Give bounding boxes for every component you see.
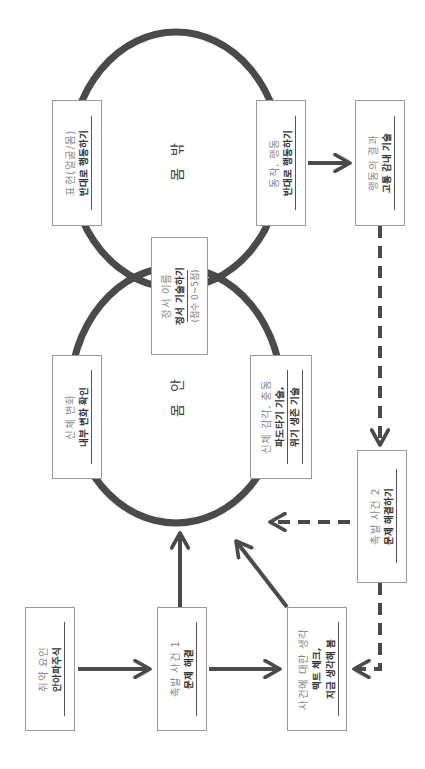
sensation-skill-line1: 파도타기 기술, [273,370,288,464]
thoughts-title: 사건에 대한 생각 [296,628,310,709]
trigger2-title: 촉발 사건 2 [368,488,382,545]
expression-skill: 반대로 행동하기 [77,116,92,210]
result-title: 행동의 결과 [366,135,380,191]
expression-title: 표현(얼굴/몸) [63,130,77,196]
trigger1-box: 촉발 사건 1 문제 해결 [157,607,207,731]
vulnerability-box: 취약 요인 안아파주식 [25,607,75,731]
action-title: 동작, 행동 [267,138,281,188]
emotion-name-skill: 정서 기술하기 [173,249,187,343]
thoughts-skill-line1: 팩트 체크, [310,622,324,716]
arrow-thoughts-to-inside-body [236,541,287,607]
emotion-model-diagram: 몸 안 몸 밖 취약 요인 안아파주식 촉발 사건 1 문제 해결 사건에 대한… [0,0,425,769]
emotion-name-box: 정서 이름 정서 기술하기 (점수 0~5점) [151,237,208,355]
trigger2-skill: 문제 해결하기 [382,470,397,564]
sensation-box: 신체 감각, 충동 파도타기 기술, 위기 생존 기술 [250,355,312,479]
thoughts-skill-line2: 지금 생각해 봄 [324,622,339,716]
body-change-box: 신체 변화 내부 변화 확인 [52,355,102,479]
vulnerability-skill: 안아파주식 [50,622,65,716]
body-change-title: 신체 변화 [63,394,77,440]
action-box: 동작, 행동 반대로 행동하기 [256,100,306,226]
vulnerability-title: 취약 요인 [36,646,50,692]
result-skill: 고통 감내 기술 [380,116,395,210]
outside-body-label: 몸 밖 [166,139,186,181]
result-box: 행동의 결과 고통 감내 기술 [355,100,405,226]
body-change-skill: 내부 변화 확인 [77,370,92,464]
sensation-title: 신체 감각, 충동 [259,380,273,455]
arrow-trigger2-to-thoughts [354,583,380,669]
emotion-name-score: (점수 0~5점) [187,270,201,323]
expression-box: 표현(얼굴/몸) 반대로 행동하기 [52,100,102,226]
action-skill: 반대로 행동하기 [281,116,296,210]
trigger2-box: 촉발 사건 2 문제 해결하기 [357,450,407,583]
inside-body-label: 몸 안 [166,375,186,417]
trigger1-skill: 문제 해결 [182,622,197,716]
trigger1-title: 촉발 사건 1 [168,641,182,698]
thoughts-box: 사건에 대한 생각 팩트 체크, 지금 생각해 봄 [287,607,347,731]
sensation-skill-line2: 위기 생존 기술 [288,370,303,464]
emotion-name-title: 정서 이름 [159,273,173,319]
